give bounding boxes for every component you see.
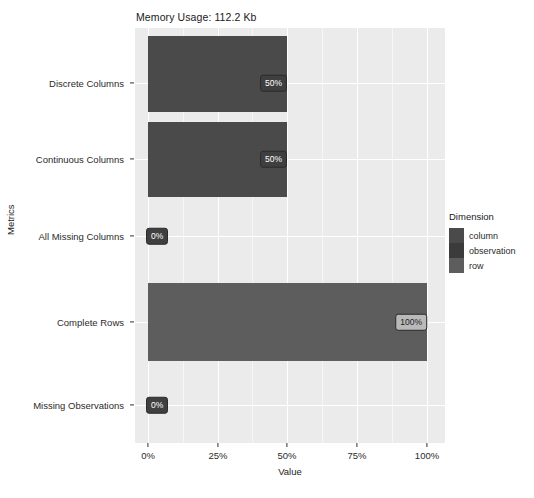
legend-swatch-icon xyxy=(449,228,464,243)
y-tick-label-discrete-columns: Discrete Columns xyxy=(49,78,124,89)
gridline-major-horizontal xyxy=(135,405,445,406)
bar-value-label: 0% xyxy=(146,397,168,414)
bar-value-label: 50% xyxy=(260,75,287,92)
bar-value-label: 50% xyxy=(260,151,287,168)
x-tick-label-0: 0% xyxy=(141,450,155,461)
x-tick-mark xyxy=(147,443,148,447)
legend-item-row[interactable]: row xyxy=(449,258,516,273)
legend: Dimension column observation row xyxy=(449,211,516,273)
bar-value-label: 100% xyxy=(395,314,427,331)
legend-item-label: row xyxy=(469,261,484,271)
bar-value-label: 0% xyxy=(146,228,168,245)
y-tick-mark xyxy=(130,82,134,83)
legend-swatch-icon xyxy=(449,243,464,258)
chart-container: Memory Usage: 112.2 Kb 50% 50% 0% 100% xyxy=(0,0,534,498)
x-tick-label-50: 50% xyxy=(277,450,296,461)
y-axis-tick-labels: Discrete Columns Continuous Columns All … xyxy=(0,28,124,443)
y-tick-label-missing-observations: Missing Observations xyxy=(33,400,124,411)
legend-title: Dimension xyxy=(449,211,516,222)
y-tick-mark xyxy=(130,235,134,236)
y-tick-mark xyxy=(130,321,134,322)
legend-item-label: column xyxy=(469,231,498,241)
y-tick-label-all-missing-columns: All Missing Columns xyxy=(38,231,124,242)
x-tick-mark xyxy=(426,443,427,447)
y-tick-label-continuous-columns: Continuous Columns xyxy=(36,154,124,165)
plot-panel: 50% 50% 0% 100% 0% xyxy=(135,28,445,443)
x-tick-mark xyxy=(356,443,357,447)
chart-title: Memory Usage: 112.2 Kb xyxy=(136,11,256,23)
x-tick-label-100: 100% xyxy=(415,450,439,461)
y-axis-title: Metrics xyxy=(5,204,16,235)
legend-item-observation[interactable]: observation xyxy=(449,243,516,258)
y-tick-label-complete-rows: Complete Rows xyxy=(57,317,124,328)
legend-item-column[interactable]: column xyxy=(449,228,516,243)
legend-swatch-icon xyxy=(449,258,464,273)
bar-complete-rows[interactable] xyxy=(148,283,427,361)
x-tick-mark xyxy=(286,443,287,447)
y-tick-mark xyxy=(130,404,134,405)
gridline-major-horizontal xyxy=(135,236,445,237)
x-tick-mark xyxy=(217,443,218,447)
x-tick-label-25: 25% xyxy=(208,450,227,461)
x-axis-title: Value xyxy=(278,466,302,477)
x-tick-label-75: 75% xyxy=(347,450,366,461)
y-tick-mark xyxy=(130,158,134,159)
legend-item-label: observation xyxy=(469,246,516,256)
